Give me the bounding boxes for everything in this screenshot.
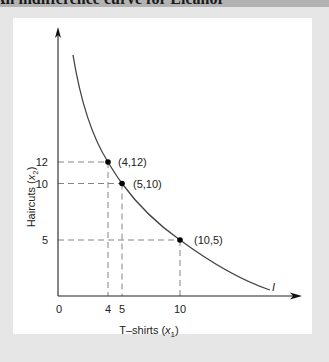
point-label-4-12: (4,12) bbox=[118, 156, 147, 168]
x-tick-0: 0 bbox=[56, 303, 62, 315]
y-tick-5: 5 bbox=[42, 234, 48, 246]
y-axis-title: Haircuts (x2) bbox=[25, 167, 40, 228]
point-4-12 bbox=[105, 159, 111, 165]
point-10-5 bbox=[177, 237, 183, 243]
x-tick-5: 5 bbox=[119, 303, 125, 315]
point-label-5-10: (5,10) bbox=[133, 178, 162, 190]
point-5-10 bbox=[119, 181, 125, 187]
x-tick-4: 4 bbox=[105, 303, 111, 315]
curve-label: I bbox=[272, 281, 275, 293]
indifference-chart: (4,12) (5,10) (10,5) I 12 10 5 0 4 5 10 … bbox=[0, 0, 329, 362]
y-tick-12: 12 bbox=[36, 156, 48, 168]
x-axis-title: T–shirts (x1) bbox=[119, 324, 178, 339]
point-label-10-5: (10,5) bbox=[194, 234, 223, 246]
x-tick-10: 10 bbox=[174, 303, 186, 315]
indifference-curve bbox=[73, 55, 270, 290]
y-tick-10: 10 bbox=[36, 178, 48, 190]
